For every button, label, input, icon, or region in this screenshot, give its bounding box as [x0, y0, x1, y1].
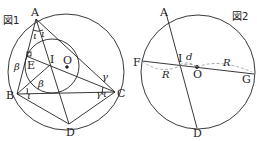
point-o-2-label: O — [193, 68, 202, 81]
point-c-1: C — [117, 87, 125, 100]
angle-beta-left: β — [13, 61, 20, 72]
length-d: d — [186, 51, 192, 62]
figure-1-title: 図1 — [3, 15, 19, 26]
point-f-2: F — [133, 56, 141, 69]
angle-gamma-c-upper: γ — [102, 71, 108, 82]
angle-gamma-c-lower: γ — [96, 88, 102, 99]
point-i-2: I — [178, 52, 182, 65]
point-i-1: I — [50, 53, 54, 66]
angle-iota-a-left: ι — [33, 30, 37, 41]
angle-iota-a-right: ι — [41, 28, 45, 39]
figure-2-title: 図2 — [232, 11, 248, 22]
point-a-1: A — [30, 6, 40, 19]
point-a-2: A — [159, 6, 169, 19]
angle-beta-inner: β — [37, 78, 44, 89]
length-r-right: R — [222, 57, 231, 68]
angle-iota-c: ι — [103, 88, 107, 99]
line-cd — [69, 92, 115, 124]
point-d-1: D — [66, 126, 75, 139]
point-o-1-label: O — [63, 54, 72, 67]
angle-iota-b: ι — [27, 90, 31, 101]
point-e-1: E — [27, 59, 35, 72]
point-d-2: D — [193, 127, 202, 140]
point-g-2: G — [242, 73, 251, 86]
length-r-left: R — [161, 69, 170, 80]
point-b-1: B — [6, 89, 14, 102]
geometry-figures: 図1 A B C D E I O ι ι β β ι γ γ ι 図2 A F … — [0, 0, 257, 141]
